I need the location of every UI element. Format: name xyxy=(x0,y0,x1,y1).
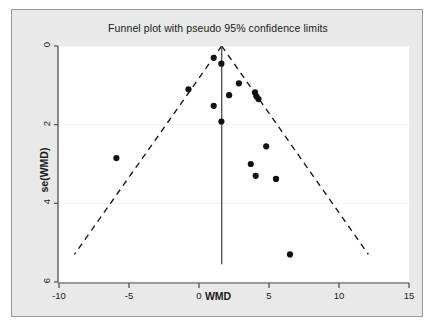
plot-canvas xyxy=(59,46,409,282)
limit-line-left xyxy=(74,46,221,254)
data-point xyxy=(263,143,269,149)
limit-line-right xyxy=(222,46,369,254)
chart-panel: Funnel plot with pseudo 95% confidence l… xyxy=(11,9,423,317)
x-tick-label: -5 xyxy=(109,290,149,301)
x-tick-label: 0 xyxy=(179,290,219,301)
y-tick-label: 4 xyxy=(41,192,52,212)
x-tick-label: 10 xyxy=(319,290,359,301)
funnel-plot-figure: Funnel plot with pseudo 95% confidence l… xyxy=(0,0,434,328)
data-point xyxy=(248,161,254,167)
data-point xyxy=(273,176,279,182)
data-point xyxy=(185,86,191,92)
plot-region xyxy=(59,46,409,282)
data-point xyxy=(253,173,259,179)
data-point xyxy=(211,55,217,61)
data-point xyxy=(113,155,119,161)
data-point xyxy=(287,251,293,257)
data-points xyxy=(113,55,293,258)
chart-title: Funnel plot with pseudo 95% confidence l… xyxy=(12,22,424,34)
data-point xyxy=(218,61,224,67)
y-tick-label: 0 xyxy=(41,35,52,55)
gridlines xyxy=(59,46,409,282)
y-tick-label: 2 xyxy=(41,113,52,133)
data-point xyxy=(236,80,242,86)
data-point xyxy=(218,118,224,124)
data-point xyxy=(211,103,217,109)
x-tick-label: -10 xyxy=(39,290,79,301)
y-tick-label: 6 xyxy=(41,271,52,291)
data-point xyxy=(226,92,232,98)
data-point xyxy=(255,96,261,102)
x-tick-label: 15 xyxy=(389,290,429,301)
x-tick-label: 5 xyxy=(249,290,289,301)
